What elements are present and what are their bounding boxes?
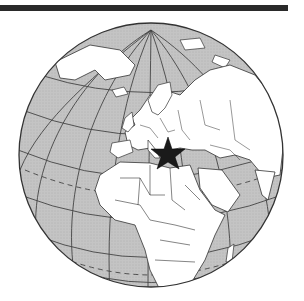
globe-map [0, 0, 304, 301]
